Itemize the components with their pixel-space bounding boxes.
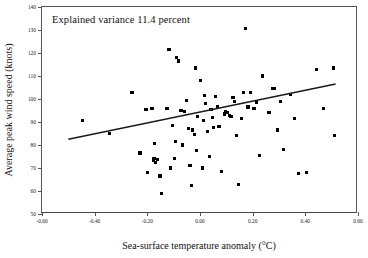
y-axis-title-wrap: Average peak wind speed (knots): [9, 6, 23, 213]
y-tick-mark: [38, 122, 42, 123]
y-tick-mark: [38, 7, 42, 8]
x-tick-mark: [147, 212, 148, 216]
x-tick-mark: [200, 212, 201, 216]
x-tick-label: -0.40: [89, 218, 100, 224]
x-tick-label: 0.60: [353, 218, 362, 224]
y-tick-label: 110: [28, 73, 36, 79]
y-tick-label: 70: [31, 165, 36, 171]
y-tick-label: 50: [31, 211, 36, 217]
x-tick-mark: [253, 212, 254, 216]
y-tick-mark: [38, 145, 42, 146]
linear-regression-line: [42, 7, 358, 214]
y-tick-mark: [38, 99, 42, 100]
y-tick-label: 140: [28, 4, 36, 10]
x-tick-label: 0.40: [301, 218, 310, 224]
plot-area: Explained variance 11.4 percent 50607080…: [41, 6, 357, 213]
scatter-plot-figure: Explained variance 11.4 percent 50607080…: [0, 0, 368, 258]
x-tick-label: 0.00: [195, 218, 204, 224]
y-tick-label: 60: [31, 188, 36, 194]
x-axis-title: Sea-surface temperature anomaly (°C): [41, 240, 357, 251]
x-tick-mark: [358, 212, 359, 216]
y-tick-label: 90: [31, 119, 36, 125]
y-tick-mark: [38, 76, 42, 77]
y-axis-title: Average peak wind speed (knots): [3, 43, 14, 176]
x-tick-mark: [95, 212, 96, 216]
x-tick-label: -0.20: [142, 218, 153, 224]
x-tick-label: 0.20: [248, 218, 257, 224]
y-tick-label: 100: [28, 96, 36, 102]
x-tick-mark: [305, 212, 306, 216]
y-tick-mark: [38, 30, 42, 31]
x-tick-mark: [42, 212, 43, 216]
y-tick-label: 80: [31, 142, 36, 148]
y-tick-mark: [38, 168, 42, 169]
y-tick-label: 120: [28, 50, 36, 56]
y-tick-mark: [38, 53, 42, 54]
y-tick-mark: [38, 191, 42, 192]
x-tick-label: -0.60: [36, 218, 47, 224]
y-tick-label: 130: [28, 27, 36, 33]
